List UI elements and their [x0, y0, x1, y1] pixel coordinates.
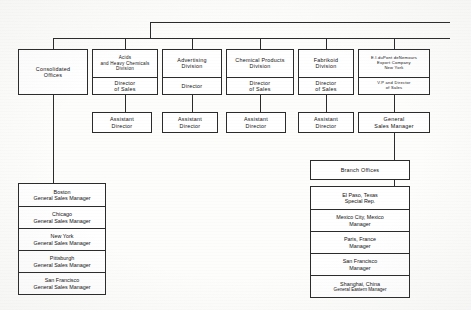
role-fabrikoid-division-line: of Sales — [315, 86, 336, 92]
connector-to-acids-and-heavy-chemicals-division — [125, 38, 126, 49]
header-acids-and-heavy-chemicals-division-line: Division — [116, 66, 134, 71]
role-fabrikoid-division: Directorof Sales — [299, 77, 353, 94]
list-item: ChicagoGeneral Sales Manager — [19, 206, 105, 228]
rail-left-spur — [53, 38, 151, 39]
label-assistant-director-advertising-line: Director — [180, 123, 201, 129]
box-general-sales-manager-export: GeneralSales Manager — [358, 112, 430, 133]
title-label: Manager — [349, 265, 370, 271]
header-consolidated-offices-line: Offices — [44, 72, 62, 78]
connector-assistant-director-acids — [125, 95, 126, 112]
role-advertising-division-line: Director — [182, 83, 203, 89]
role-advertising-division: Director — [163, 77, 221, 94]
list-item: PittsburghGeneral Sales Manager — [19, 250, 105, 272]
role-acids-and-heavy-chemicals-division: Directorof Sales — [93, 77, 157, 94]
role-chemical-products-division: Directorof Sales — [227, 77, 293, 94]
box-fabrikoid-division: FabrikoidDivisionDirectorof Sales — [298, 49, 354, 95]
connector-to-chemical-products-division — [260, 38, 261, 49]
org-chart: ConsolidatedOfficesAcidsand Heavy Chemic… — [0, 0, 471, 310]
list-consolidated-offices-list: BostonGeneral Sales ManagerChicagoGenera… — [18, 183, 106, 295]
label-assistant-director-fabrikoid-line: Director — [316, 123, 337, 129]
connector-branch-offices — [394, 133, 395, 160]
connector-general-sales-manager-export — [394, 95, 395, 112]
list-item: Mexico City, MexicoManager — [311, 209, 409, 231]
title-label: General Sales Manager — [34, 195, 91, 201]
title-label: General Sales Manager — [34, 284, 91, 290]
top-rail-upper — [150, 22, 450, 23]
list-item: El Paso, TexasSpecial Rep. — [311, 187, 409, 209]
top-rail-lower — [150, 38, 450, 39]
title-label: General Eastern Manager — [334, 287, 387, 293]
connector-assistant-director-fabrikoid — [326, 95, 327, 112]
list-item: Shanghai, ChinaGeneral Eastern Manager — [311, 275, 409, 297]
header-advertising-division-line: Division — [182, 63, 203, 69]
box-assistant-director-fabrikoid: AssistantDirector — [298, 112, 354, 133]
header-acids-and-heavy-chemicals-division: Acidsand Heavy ChemicalsDivision — [93, 50, 157, 77]
list-item: BostonGeneral Sales Manager — [19, 184, 105, 206]
header-fabrikoid-division: FabrikoidDivision — [299, 50, 353, 77]
box-acids-and-heavy-chemicals-division: Acidsand Heavy ChemicalsDivisionDirector… — [92, 49, 158, 95]
title-label: General Sales Manager — [34, 240, 91, 246]
list-item: New YorkGeneral Sales Manager — [19, 228, 105, 250]
box-branch-offices-heading: Branch Offices — [310, 160, 410, 180]
role-export-company-line: of Sales — [386, 86, 403, 91]
title-label: Special Rep. — [345, 198, 376, 204]
list-item: San FranciscoGeneral Sales Manager — [19, 272, 105, 294]
title-label: General Sales Manager — [34, 218, 91, 224]
connector-to-fabrikoid-division — [326, 38, 327, 49]
role-acids-and-heavy-chemicals-division-line: of Sales — [114, 86, 135, 92]
top-rail-drop-left — [150, 22, 151, 39]
header-export-company-line: New York — [384, 66, 403, 71]
header-advertising-division: AdvertisingDivision — [163, 50, 221, 77]
connector-assistant-director-chemical-products — [260, 95, 261, 112]
label-assistant-director-chemical-products-line: Director — [246, 123, 267, 129]
connector-consolidated-offices-list — [53, 95, 54, 183]
box-advertising-division: AdvertisingDivisionDirector — [162, 49, 222, 95]
role-export-company: V.P and Directorof Sales — [359, 77, 429, 94]
box-export-company: E.I.duPont deNemoursExport CompanyNew Yo… — [358, 49, 430, 95]
label-general-sales-manager-export-line: Sales Manager — [374, 123, 413, 129]
connector-to-consolidated-offices — [53, 38, 54, 49]
box-chemical-products-division: Chemical ProductsDivisionDirectorof Sale… — [226, 49, 294, 95]
header-export-company: E.I.duPont deNemoursExport CompanyNew Yo… — [359, 50, 429, 77]
title-label: Manager — [349, 243, 370, 249]
role-chemical-products-division-line: of Sales — [249, 86, 270, 92]
header-fabrikoid-division-line: Division — [316, 63, 337, 69]
header-consolidated-offices: ConsolidatedOffices — [19, 50, 87, 94]
list-item: Paris, FranceManager — [311, 231, 409, 253]
connector-to-export-company — [394, 38, 395, 49]
list-branch-offices: El Paso, TexasSpecial Rep.Mexico City, M… — [310, 186, 410, 298]
box-assistant-director-advertising: AssistantDirector — [162, 112, 218, 133]
title-label: General Sales Manager — [34, 262, 91, 268]
connector-assistant-director-advertising — [192, 95, 193, 112]
header-chemical-products-division: Chemical ProductsDivision — [227, 50, 293, 77]
list-item: San FranciscoManager — [311, 253, 409, 275]
branch-offices-heading: Branch Offices — [341, 167, 380, 173]
label-assistant-director-acids-line: Director — [112, 123, 133, 129]
box-assistant-director-acids: AssistantDirector — [92, 112, 152, 133]
header-chemical-products-division-line: Division — [250, 63, 271, 69]
connector-to-advertising-division — [192, 38, 193, 49]
box-assistant-director-chemical-products: AssistantDirector — [226, 112, 286, 133]
title-label: Manager — [349, 221, 370, 227]
box-consolidated-offices: ConsolidatedOffices — [18, 49, 88, 95]
